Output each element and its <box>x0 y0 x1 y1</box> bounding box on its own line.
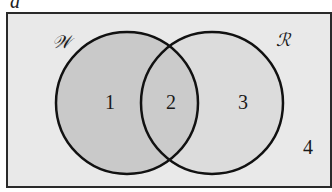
region-1-label: 1 <box>105 91 115 113</box>
region-3-label: 3 <box>238 91 248 113</box>
region-4-label: 4 <box>303 136 313 158</box>
region-2-label: 2 <box>166 91 176 113</box>
set-r-label: ℛ <box>276 30 292 50</box>
venn-diagram: 𝒲 ℛ 1 2 3 4 <box>0 0 332 192</box>
